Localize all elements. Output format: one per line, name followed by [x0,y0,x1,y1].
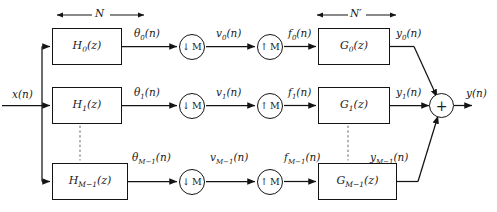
downsampler-label-1: ↓ M [182,101,202,111]
channel-output-signal-m1: yM−1(n) [370,152,408,166]
summing-junction[interactable]: + [429,93,454,118]
input-signal-label: x(n) [12,89,33,100]
synthesis-filter-label-1: G1(z) [340,99,368,113]
synthesis-filter-box-m1[interactable]: GM−1(z) [318,163,397,200]
analysis-filter-box-m1[interactable]: HM−1(z) [52,163,128,200]
decimated-signal-m1: vM−1(n) [210,152,248,166]
downsampler-label-0: ↓ M [182,42,202,52]
decimated-signal-1: v1(n) [216,87,241,101]
dimension-label-N: N [95,8,104,19]
analysis-output-signal-1: θ1(n) [134,87,160,101]
analysis-filter-label-0: H0(z) [73,40,102,54]
upsampler-m1[interactable]: ↑ M [257,169,283,195]
synthesis-filter-label-m1: GM−1(z) [337,175,379,189]
synthesis-filter-box-1[interactable]: G1(z) [318,87,390,124]
output-signal-label: y(n) [466,88,487,99]
downsampler-0[interactable]: ↓ M [179,34,205,60]
analysis-output-signal-0: θ0(n) [134,28,160,42]
interpolated-signal-m1: fM−1(n) [284,152,320,166]
decimated-signal-0: v0(n) [216,28,241,42]
analysis-output-signal-m1: θM−1(n) [132,152,171,166]
upsampler-label-1: ↑ M [260,101,280,111]
interpolated-signal-1: f1(n) [288,87,311,101]
filter-bank-diagram: N N′ x(n) y(n) H0(z) θ0(n) ↓ M v0(n) ↑ M… [0,0,497,212]
dimension-label-N-prime: N′ [350,8,362,19]
channel-output-signal-0: y0(n) [396,28,421,42]
upsampler-label-m1: ↑ M [260,177,280,187]
interpolated-signal-0: f0(n) [288,28,311,42]
downsampler-1[interactable]: ↓ M [179,93,205,119]
analysis-filter-label-m1: HM−1(z) [69,175,112,189]
analysis-filter-box-0[interactable]: H0(z) [52,28,122,65]
upsampler-0[interactable]: ↑ M [257,34,283,60]
synthesis-filter-box-0[interactable]: G0(z) [318,28,390,65]
upsampler-label-0: ↑ M [260,42,280,52]
plus-sign-icon: + [436,99,448,113]
synthesis-filter-label-0: G0(z) [340,40,368,54]
analysis-filter-label-1: H1(z) [73,99,102,113]
channel-output-signal-1: y1(n) [396,87,421,101]
upsampler-1[interactable]: ↑ M [257,93,283,119]
downsampler-m1[interactable]: ↓ M [179,169,205,195]
analysis-filter-box-1[interactable]: H1(z) [52,87,122,124]
downsampler-label-m1: ↓ M [182,177,202,187]
